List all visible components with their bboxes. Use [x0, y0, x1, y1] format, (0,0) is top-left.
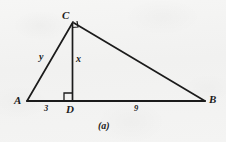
vertex-label-d: D	[66, 104, 74, 115]
measure-label-ad: 3	[44, 104, 48, 113]
vertex-label-b: B	[209, 94, 216, 105]
segment-cb	[74, 23, 205, 101]
right-angle-mark-d	[64, 93, 72, 101]
side-label-x: x	[76, 54, 81, 64]
vertex-label-c: C	[62, 10, 69, 21]
vertex-label-a: A	[14, 95, 21, 106]
segment-ac	[27, 22, 73, 101]
measure-label-db: 9	[134, 104, 138, 113]
figure-caption: (a)	[98, 121, 110, 131]
side-label-y: y	[39, 52, 43, 62]
triangle-diagram-svg	[0, 0, 226, 142]
geometry-figure: A B C D y x 3 9 (a)	[0, 0, 226, 142]
